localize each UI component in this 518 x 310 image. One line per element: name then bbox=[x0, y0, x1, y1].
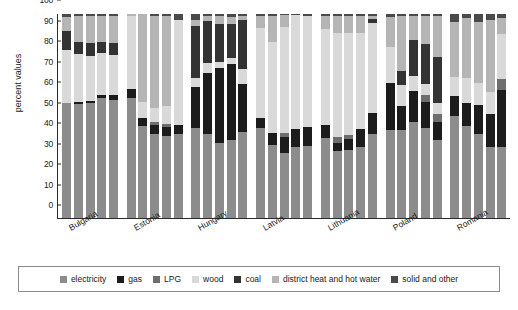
stacked-bar[interactable] bbox=[409, 14, 418, 218]
legend-swatch-icon bbox=[117, 276, 124, 283]
legend-label: LPG bbox=[164, 274, 181, 284]
bar-group-lithuania bbox=[321, 14, 377, 218]
bar-segment-district-heat-and-hot-water bbox=[268, 16, 277, 42]
bar-segment-electricity bbox=[174, 134, 183, 218]
bar-segment-electricity bbox=[409, 122, 418, 218]
bar-segment-electricity bbox=[86, 103, 95, 218]
y-axis-title: percent values bbox=[13, 13, 23, 153]
legend-item-electricity[interactable]: electricity bbox=[60, 274, 106, 284]
stacked-bar[interactable] bbox=[321, 14, 330, 218]
bar-segment-coal bbox=[97, 42, 106, 53]
stacked-bar[interactable] bbox=[174, 14, 183, 218]
stacked-bar[interactable] bbox=[227, 14, 236, 218]
stacked-bar[interactable] bbox=[450, 14, 459, 218]
bar-segment-gas bbox=[303, 127, 312, 145]
bar-segment-district-heat-and-hot-water bbox=[462, 18, 471, 78]
y-tick-label: 90 bbox=[44, 16, 53, 26]
bar-segment-electricity bbox=[421, 128, 430, 218]
y-tick-label: 0 bbox=[48, 200, 53, 210]
y-tick-label: 20 bbox=[44, 159, 53, 169]
bar-segment-gas bbox=[321, 125, 330, 138]
y-tick-mark bbox=[57, 0, 61, 1]
bar-segment-district-heat-and-hot-water bbox=[486, 20, 495, 91]
legend-swatch-icon bbox=[153, 276, 160, 283]
stacked-bar[interactable] bbox=[256, 14, 265, 218]
legend-item-solid-and-other[interactable]: solid and other bbox=[391, 274, 458, 284]
stacked-bar[interactable] bbox=[397, 14, 406, 218]
bars-layer bbox=[58, 14, 510, 218]
bar-segment-LPG bbox=[497, 79, 506, 89]
stacked-bar[interactable] bbox=[462, 14, 471, 218]
legend-item-gas[interactable]: gas bbox=[117, 274, 142, 284]
bar-segment-wood bbox=[268, 42, 277, 134]
bar-segment-wood bbox=[150, 108, 159, 122]
stacked-bar[interactable] bbox=[191, 14, 200, 218]
stacked-bar[interactable] bbox=[97, 14, 106, 218]
bar-segment-LPG bbox=[433, 114, 442, 122]
bar-segment-district-heat-and-hot-water bbox=[497, 18, 506, 34]
stacked-bar[interactable] bbox=[215, 14, 224, 218]
bar-segment-gas bbox=[291, 129, 300, 146]
legend-item-district-heat-and-hot-water[interactable]: district heat and hot water bbox=[272, 274, 380, 284]
bar-segment-gas bbox=[333, 143, 342, 151]
bar-segment-electricity bbox=[397, 130, 406, 218]
stacked-bar[interactable] bbox=[433, 14, 442, 218]
stacked-bar[interactable] bbox=[127, 14, 136, 218]
stacked-bar[interactable] bbox=[303, 14, 312, 218]
bar-segment-gas bbox=[162, 127, 171, 136]
bar-segment-coal bbox=[203, 21, 212, 63]
stacked-bar[interactable] bbox=[138, 14, 147, 218]
legend-swatch-icon bbox=[60, 276, 67, 283]
stacked-bar[interactable] bbox=[474, 14, 483, 218]
stacked-bar[interactable] bbox=[268, 14, 277, 218]
bar-segment-district-heat-and-hot-water bbox=[321, 16, 330, 29]
stacked-bar[interactable] bbox=[291, 14, 300, 218]
legend-item-coal[interactable]: coal bbox=[234, 274, 261, 284]
bar-segment-coal bbox=[238, 20, 247, 69]
bar-segment-gas bbox=[127, 89, 136, 97]
bar-segment-wood bbox=[333, 33, 342, 137]
bar-segment-gas bbox=[397, 106, 406, 130]
stacked-bar[interactable] bbox=[421, 14, 430, 218]
chart-legend: electricitygasLPGwoodcoaldistrict heat a… bbox=[18, 266, 500, 292]
stacked-bar[interactable] bbox=[238, 14, 247, 218]
stacked-bar[interactable] bbox=[86, 14, 95, 218]
stacked-bar[interactable] bbox=[486, 14, 495, 218]
bar-segment-wood bbox=[450, 77, 459, 95]
bar-segment-electricity bbox=[474, 134, 483, 218]
bar-segment-district-heat-and-hot-water bbox=[386, 17, 395, 47]
stacked-bar[interactable] bbox=[344, 14, 353, 218]
bar-segment-wood bbox=[433, 103, 442, 114]
stacked-bar[interactable] bbox=[203, 14, 212, 218]
bar-segment-district-heat-and-hot-water bbox=[109, 16, 118, 43]
bar-segment-wood bbox=[138, 102, 147, 118]
stacked-bar[interactable] bbox=[109, 14, 118, 218]
stacked-bar[interactable] bbox=[368, 14, 377, 218]
bar-segment-electricity bbox=[191, 128, 200, 218]
stacked-bar[interactable] bbox=[162, 14, 171, 218]
bar-segment-district-heat-and-hot-water bbox=[280, 15, 289, 27]
bar-segment-wood bbox=[321, 29, 330, 125]
stacked-bar[interactable] bbox=[356, 14, 365, 218]
stacked-bar[interactable] bbox=[62, 14, 71, 218]
bar-segment-wood bbox=[397, 85, 406, 105]
bar-segment-district-heat-and-hot-water bbox=[421, 16, 430, 44]
bar-segment-district-heat-and-hot-water bbox=[474, 22, 483, 83]
stacked-bar[interactable] bbox=[150, 14, 159, 218]
stacked-bar[interactable] bbox=[280, 14, 289, 218]
stacked-bar[interactable] bbox=[497, 14, 506, 218]
legend-item-LPG[interactable]: LPG bbox=[153, 274, 181, 284]
bar-segment-wood bbox=[280, 27, 289, 133]
stacked-bar[interactable] bbox=[386, 14, 395, 218]
bar-segment-wood bbox=[74, 54, 83, 102]
bar-segment-wood bbox=[409, 76, 418, 90]
legend-swatch-icon bbox=[234, 276, 241, 283]
bar-segment-electricity bbox=[256, 128, 265, 218]
stacked-bar[interactable] bbox=[333, 14, 342, 218]
bar-segment-wood bbox=[62, 50, 71, 103]
bar-segment-coal bbox=[397, 71, 406, 85]
bar-segment-gas bbox=[462, 103, 471, 126]
legend-item-wood[interactable]: wood bbox=[192, 274, 223, 284]
stacked-bar[interactable] bbox=[74, 14, 83, 218]
bar-segment-wood bbox=[203, 63, 212, 73]
